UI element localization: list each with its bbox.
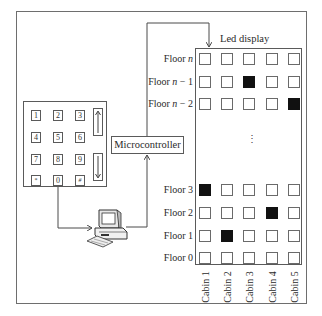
key-0: 0 (53, 175, 63, 186)
floor-label: Floor 3 (164, 184, 193, 196)
led-off (266, 252, 278, 264)
led-off (199, 252, 211, 264)
led-off (288, 76, 300, 88)
led-on (221, 230, 233, 242)
key-7: 7 (31, 154, 41, 165)
cabin-label: Cabin 2 (221, 270, 233, 304)
floor-label: Floor n − 1 (148, 76, 193, 88)
key-6: 6 (75, 132, 85, 143)
floor-label: Floor 1 (164, 230, 193, 242)
led-off (288, 207, 300, 219)
led-off (243, 207, 255, 219)
key-1: 1 (31, 110, 41, 121)
key-star: * (31, 175, 41, 186)
led-off (266, 53, 278, 65)
rows-ellipsis: ⋮ (247, 136, 253, 142)
led-on (243, 76, 255, 88)
led-off (288, 184, 300, 196)
key-9: 9 (75, 154, 85, 165)
up-arrow-button (93, 108, 103, 136)
led-off (199, 76, 211, 88)
led-off (221, 76, 233, 88)
led-off (221, 184, 233, 196)
key-3: 3 (75, 110, 85, 121)
floor-label: Floor n − 2 (148, 98, 193, 110)
key-2: 2 (53, 110, 63, 121)
down-arrow-icon (94, 154, 102, 180)
led-off (288, 230, 300, 242)
led-off (266, 230, 278, 242)
led-off (221, 252, 233, 264)
microcontroller-box: Microcontroller (111, 136, 184, 154)
key-8: 8 (53, 154, 63, 165)
led-off (243, 184, 255, 196)
cabin-label: Cabin 3 (243, 270, 255, 304)
floor-label: Floor 0 (164, 252, 193, 264)
down-arrow-button (93, 153, 103, 181)
led-off (199, 207, 211, 219)
led-off (288, 252, 300, 264)
floor-label: Floor 2 (164, 207, 193, 219)
cabin-label: Cabin 5 (288, 270, 300, 304)
led-display-title: Led display (220, 33, 269, 44)
led-off (243, 98, 255, 110)
computer-to-microcontroller-arrow (126, 155, 147, 227)
key-5: 5 (53, 132, 63, 143)
led-off (199, 230, 211, 242)
led-off (243, 53, 255, 65)
led-off (199, 53, 211, 65)
key-4: 4 (31, 132, 41, 143)
led-off (221, 53, 233, 65)
led-on (199, 184, 211, 196)
led-off (199, 98, 211, 110)
led-off (221, 98, 233, 110)
led-off (243, 230, 255, 242)
key-hash: # (75, 175, 85, 186)
floor-label: Floor n (164, 53, 193, 65)
computer-icon (85, 208, 129, 248)
up-arrow-icon (94, 109, 102, 135)
led-off (266, 76, 278, 88)
led-off (266, 98, 278, 110)
led-on (266, 207, 278, 219)
led-off (243, 252, 255, 264)
led-on (288, 98, 300, 110)
led-off (266, 184, 278, 196)
keypad: 1 2 3 4 5 6 7 8 9 * 0 # (23, 101, 107, 187)
cabin-label: Cabin 1 (199, 270, 211, 304)
led-off (288, 53, 300, 65)
led-off (221, 207, 233, 219)
cabin-label: Cabin 4 (266, 270, 278, 304)
